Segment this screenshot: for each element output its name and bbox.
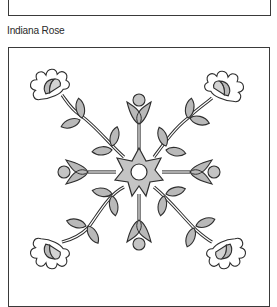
indiana-rose-illustration: [0, 0, 277, 295]
